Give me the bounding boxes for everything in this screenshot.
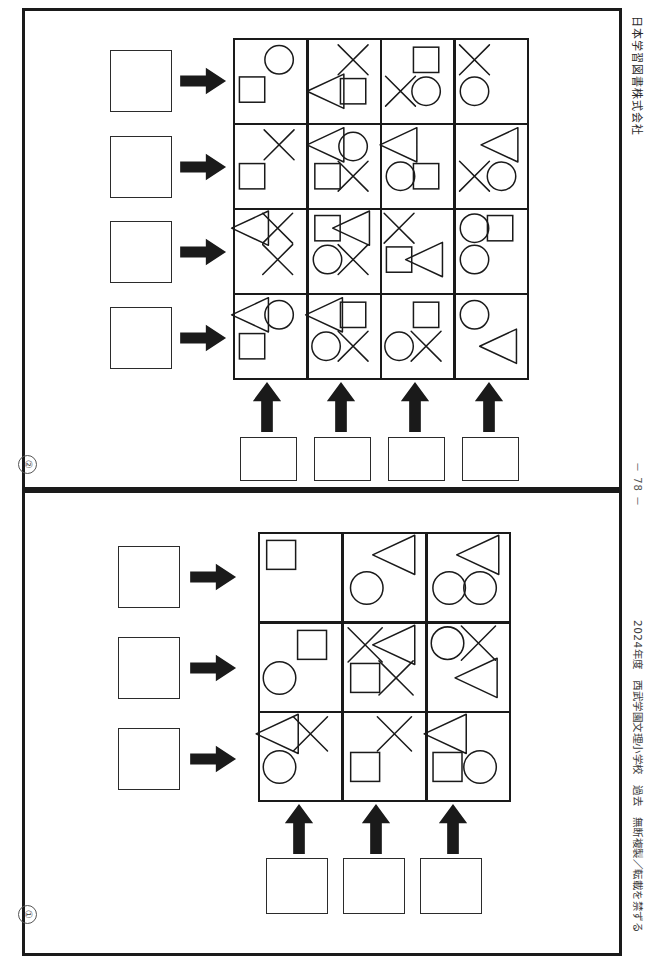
grid-cell-2-3-1: [260, 713, 341, 800]
page-number: － 78 －: [631, 462, 646, 507]
grid-cell-1-4-3: [382, 295, 453, 378]
right-arrow-icon: [180, 67, 227, 99]
grid-cell-2-1-3: [428, 534, 509, 621]
grid-cell-2-2-1: [260, 624, 341, 711]
grid-cell-1-2-2: [309, 125, 380, 208]
right-arrow-icon: [190, 654, 237, 686]
up-arrow-icon: [361, 803, 391, 859]
grid-cell-1-3-4: [456, 210, 527, 293]
grid-cell-1-3-3: [382, 210, 453, 293]
grid-cell-2-1-2: [344, 534, 425, 621]
grid-cell-1-1-4: [456, 40, 527, 123]
right-arrow-icon: [180, 324, 227, 356]
section-number-1: ①: [18, 905, 37, 924]
grid-cell-1-1-3: [382, 40, 453, 123]
grid-cell-1-1-2: [309, 40, 380, 123]
grid-cell-2-3-3: [428, 713, 509, 800]
answer-box-col-2-2[interactable]: [343, 858, 405, 914]
right-arrow-icon: [180, 238, 227, 270]
answer-box-row-2-1[interactable]: [118, 546, 180, 608]
grid-cell-1-2-3: [382, 125, 453, 208]
up-arrow-icon: [252, 381, 282, 437]
grid-cell-2-2-2: [344, 624, 425, 711]
grid-cell-1-4-1: [235, 295, 306, 378]
up-arrow-icon: [326, 381, 356, 437]
puzzle-grid-2: [258, 532, 511, 802]
grid-cell-1-4-2: [309, 295, 380, 378]
grid-cell-2-3-2: [344, 713, 425, 800]
up-arrow-icon: [400, 381, 430, 437]
footer-credit-text: 2024年度 西武学園文理小学校 過去 無断複製／転載を禁ずる: [631, 620, 646, 932]
up-arrow-icon: [438, 803, 468, 859]
grid-cell-2-1-1: [260, 534, 341, 621]
worksheet-page: 問題 日本学習図書株式会社 － 78 － 2024年度 西武学園文理小学校 過去…: [0, 0, 669, 963]
answer-box-col-2-3[interactable]: [420, 858, 482, 914]
grid-cell-1-3-1: [235, 210, 306, 293]
grid-cell-1-4-4: [456, 295, 527, 378]
answer-box-row-2-2[interactable]: [118, 637, 180, 699]
answer-box-row-1-3[interactable]: [110, 221, 172, 283]
answer-box-col-1-3[interactable]: [388, 437, 445, 481]
grid-cell-1-1-1: [235, 40, 306, 123]
answer-box-col-1-2[interactable]: [314, 437, 371, 481]
right-arrow-icon: [180, 153, 227, 185]
grid-cell-1-2-4: [456, 125, 527, 208]
masthead-text: 問題: [0, 6, 6, 56]
right-arrow-icon: [190, 563, 237, 595]
answer-box-row-1-1[interactable]: [110, 50, 172, 112]
section-number-2: ②: [18, 455, 37, 474]
right-arrow-icon: [190, 745, 237, 777]
answer-box-col-1-1[interactable]: [240, 437, 297, 481]
publisher-text: 日本学習図書株式会社: [630, 16, 646, 136]
answer-box-row-2-3[interactable]: [118, 728, 180, 790]
answer-box-row-1-2[interactable]: [110, 136, 172, 198]
up-arrow-icon: [284, 803, 314, 859]
answer-box-col-1-4[interactable]: [462, 437, 519, 481]
grid-cell-2-2-3: [428, 624, 509, 711]
puzzle-grid-1: [233, 38, 529, 380]
answer-box-col-2-1[interactable]: [266, 858, 328, 914]
answer-box-row-1-4[interactable]: [110, 307, 172, 369]
grid-cell-1-3-2: [309, 210, 380, 293]
up-arrow-icon: [474, 381, 504, 437]
grid-cell-1-2-1: [235, 125, 306, 208]
